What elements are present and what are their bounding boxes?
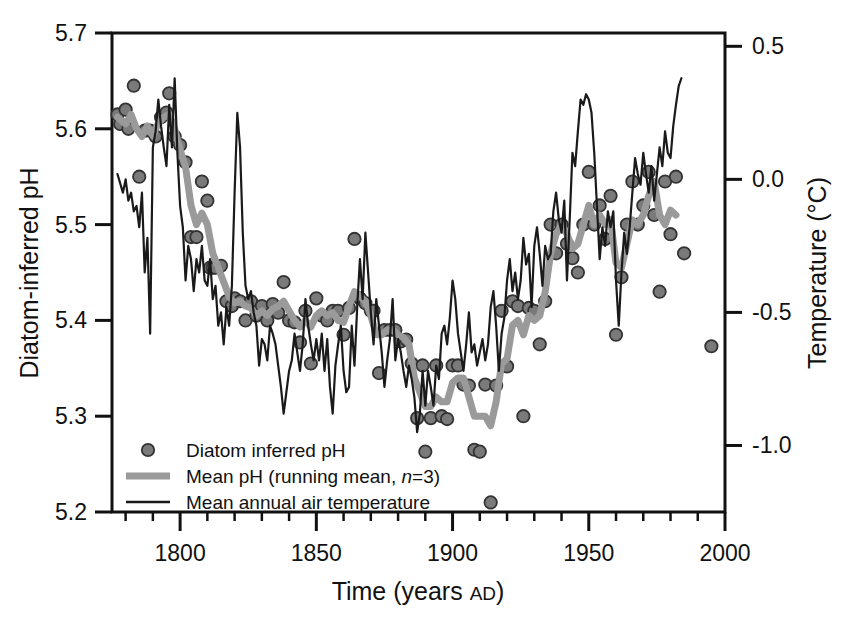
y-axis-right-label: Temperature (°C): [803, 177, 831, 369]
data-point: [610, 329, 622, 341]
x-tick-label: 1950: [563, 540, 614, 566]
y-axis-left-label: Diatom-inferred pH: [15, 167, 43, 378]
data-point: [484, 496, 496, 508]
data-point: [593, 199, 605, 211]
legend-label[interactable]: Mean pH (running mean, n=3): [186, 466, 440, 487]
data-point: [474, 445, 486, 457]
data-point: [517, 410, 529, 422]
y-tick-left-label: 5.2: [55, 499, 87, 525]
x-axis-label-end: ): [496, 577, 504, 605]
chart-svg: 180018501900195020005.25.35.45.55.65.70.…: [0, 0, 852, 617]
data-point: [201, 194, 213, 206]
y-tick-left-label: 5.5: [55, 212, 87, 238]
x-tick-label: 1900: [427, 540, 478, 566]
data-point: [128, 79, 140, 91]
data-point: [583, 166, 595, 178]
data-point: [133, 171, 145, 183]
data-point: [348, 233, 360, 245]
data-point: [416, 359, 428, 371]
data-point: [705, 340, 717, 352]
data-point: [310, 292, 322, 304]
legend-label[interactable]: Mean annual air temperature: [186, 492, 430, 513]
legend-label[interactable]: Diatom inferred pH: [186, 440, 345, 461]
y-tick-left-label: 5.6: [55, 116, 87, 142]
x-tick-label: 1850: [291, 540, 342, 566]
data-point: [534, 338, 546, 350]
data-point: [190, 231, 202, 243]
data-point: [196, 175, 208, 187]
data-point: [653, 285, 665, 297]
x-tick-label: 2000: [699, 540, 750, 566]
data-point: [664, 228, 676, 240]
y-tick-right-label: -0.5: [752, 299, 792, 325]
legend-marker-scatter[interactable]: [142, 444, 154, 456]
x-tick-label: 1800: [155, 540, 206, 566]
y-tick-right-label: 0.5: [752, 33, 784, 59]
data-point: [678, 247, 690, 259]
data-point: [305, 357, 317, 369]
y-tick-left-label: 5.3: [55, 403, 87, 429]
data-point: [670, 171, 682, 183]
data-point: [419, 445, 431, 457]
x-axis-label-main: Time (years: [332, 577, 470, 605]
y-tick-left-label: 5.7: [55, 20, 87, 46]
y-tick-right-label: 0.0: [752, 166, 784, 192]
data-point: [441, 413, 453, 425]
y-tick-right-label: -1.0: [752, 432, 792, 458]
data-point: [277, 276, 289, 288]
figure-container: 180018501900195020005.25.35.45.55.65.70.…: [0, 0, 852, 617]
data-point: [572, 266, 584, 278]
data-point: [604, 190, 616, 202]
x-axis-label-smallcaps: AD: [470, 583, 496, 604]
y-tick-left-label: 5.4: [55, 307, 87, 333]
